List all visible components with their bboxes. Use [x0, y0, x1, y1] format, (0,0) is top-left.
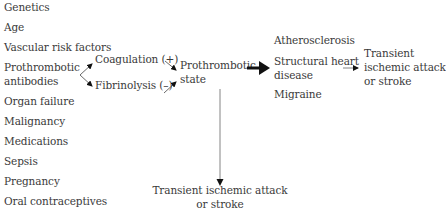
coagulation-arrow-icon	[165, 61, 176, 70]
branch-arrow-down-icon	[80, 75, 92, 86]
fibrinolysis-arrow-icon	[164, 82, 176, 93]
thick-arrow-icon	[247, 61, 270, 75]
branch-arrow-up-icon	[80, 64, 92, 75]
vertical-arrow-icon	[217, 89, 224, 186]
